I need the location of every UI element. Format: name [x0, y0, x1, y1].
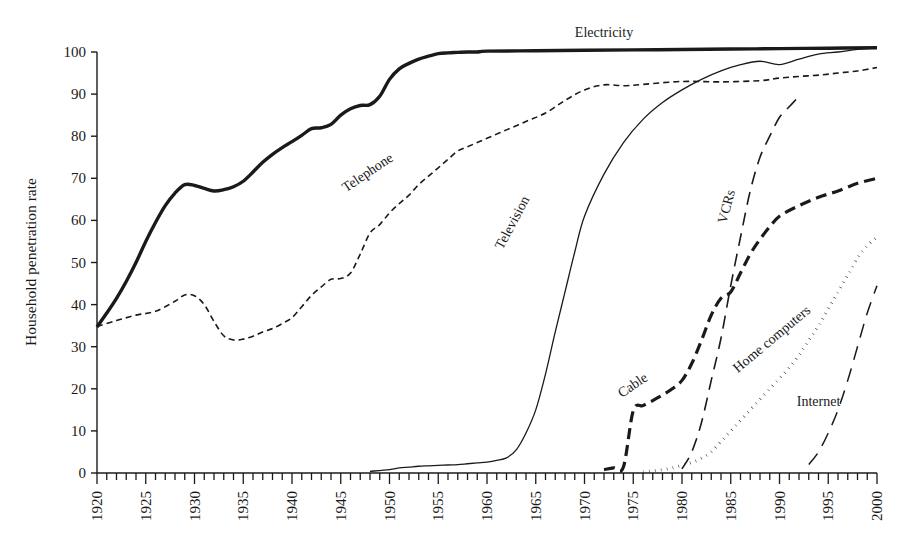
x-tick-label: 1965: [528, 491, 544, 521]
y-axis-title-group: Household penetration rate: [22, 178, 39, 346]
series-label-vcrs: VCRs: [715, 188, 738, 225]
y-axis-title: Household penetration rate: [22, 178, 39, 346]
x-tick-label: 1945: [333, 491, 349, 521]
x-tick-label: 1980: [674, 491, 690, 521]
x-tick-label: 1925: [138, 491, 154, 521]
series-line-telephone: [97, 68, 877, 341]
series-curves-group: [97, 48, 877, 472]
chart-canvas: Household penetration rate 0102030405060…: [0, 0, 914, 551]
series-label-telephone: Telephone: [339, 150, 396, 195]
x-tick-label: 2000: [869, 491, 885, 521]
y-tick-label: 0: [79, 465, 87, 481]
x-tick-label: 1930: [187, 491, 203, 521]
y-tick-label: 40: [71, 297, 86, 313]
series-label-home-computers: Home computers: [730, 302, 813, 375]
x-tick-label: 1955: [430, 491, 446, 521]
axes-group: [97, 52, 877, 473]
x-tick-label: 1920: [89, 491, 105, 521]
x-tick-label: 1960: [479, 491, 495, 521]
y-tick-label: 100: [64, 44, 87, 60]
x-tick-label: 1985: [723, 491, 739, 521]
y-tick-label: 30: [71, 339, 86, 355]
series-label-internet: Internet: [797, 394, 841, 409]
series-label-television: Television: [492, 193, 533, 251]
x-tick-label: 1950: [382, 491, 398, 521]
series-labels-group: ElectricityTelephoneTelevisionCableVCRsH…: [339, 25, 840, 408]
y-tick-label: 90: [71, 86, 86, 102]
series-label-electricity: Electricity: [575, 25, 633, 40]
x-tick-label: 1970: [577, 491, 593, 521]
y-tick-label: 80: [71, 128, 86, 144]
x-tick-label: 1940: [284, 491, 300, 521]
series-label-cable: Cable: [615, 370, 650, 401]
series-line-electricity: [97, 48, 877, 327]
y-tick-label: 50: [71, 255, 86, 271]
y-tick-label: 10: [71, 423, 86, 439]
series-line-internet: [809, 286, 877, 465]
x-tick-label: 1975: [625, 491, 641, 521]
y-tick-label: 20: [71, 381, 86, 397]
x-tick-group: 1920192519301935194019451950195519601965…: [89, 473, 885, 521]
y-tick-group: 0102030405060708090100: [64, 44, 98, 481]
y-tick-label: 70: [71, 170, 86, 186]
series-line-cable: [604, 178, 877, 471]
x-tick-label: 1995: [820, 491, 836, 521]
x-tick-label: 1935: [235, 491, 251, 521]
series-line-vcrs: [682, 96, 799, 469]
y-tick-label: 60: [71, 212, 86, 228]
x-tick-label: 1990: [772, 491, 788, 521]
penetration-rate-line-chart: Household penetration rate 0102030405060…: [0, 0, 914, 551]
